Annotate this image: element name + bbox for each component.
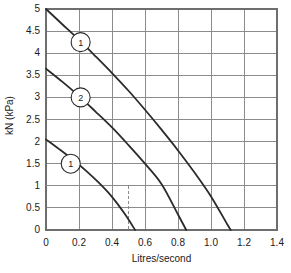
marker-label-curve-middle: 2 xyxy=(78,93,83,103)
x-tick-label: 0.6 xyxy=(127,238,163,248)
x-tick-label: 0.4 xyxy=(94,238,130,248)
marker-label-curve-bottom: 1 xyxy=(68,159,73,169)
curve-curve-middle xyxy=(46,69,186,230)
x-tick-label: 0.8 xyxy=(160,238,196,248)
y-tick-label: 1 xyxy=(6,181,40,191)
chart-container: 121 00.511.522.533.544.5500.20.40.60.81.… xyxy=(0,0,291,273)
y-tick-label: 4.5 xyxy=(6,26,40,36)
y-tick-label: 1.5 xyxy=(6,159,40,169)
x-axis-title: Litres/second xyxy=(46,253,277,264)
chart-plot-area: 121 xyxy=(0,0,291,273)
x-tick-label: 0.2 xyxy=(61,238,97,248)
y-tick-label: 0.5 xyxy=(6,203,40,213)
curve-curve-bottom xyxy=(46,139,135,230)
marker-label-curve-top: 1 xyxy=(78,38,83,48)
x-tick-label: 1.4 xyxy=(259,238,291,248)
y-tick-label: 4 xyxy=(6,48,40,58)
y-axis-title: kN (kPa) xyxy=(4,86,15,146)
y-tick-label: 5 xyxy=(6,4,40,14)
x-tick-label: 0 xyxy=(28,238,64,248)
y-tick-label: 0 xyxy=(6,225,40,235)
x-tick-label: 1.2 xyxy=(226,238,262,248)
y-tick-label: 3.5 xyxy=(6,70,40,80)
x-tick-label: 1.0 xyxy=(193,238,229,248)
curve-markers: 121 xyxy=(61,33,90,174)
